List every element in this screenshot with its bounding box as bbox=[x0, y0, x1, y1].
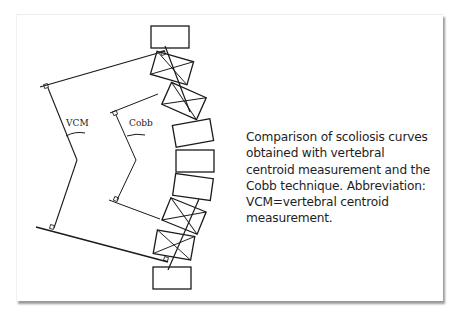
vertebra-9 bbox=[153, 267, 191, 289]
cobb-upper-right-angle-marker bbox=[112, 110, 117, 115]
vertebra-1 bbox=[151, 26, 189, 48]
cobb-angle-construction bbox=[109, 94, 160, 219]
vertebra-6 bbox=[173, 173, 214, 200]
figure-caption: Comparison of scoliosis curves obtained … bbox=[246, 129, 436, 227]
vcm-lower-right-angle-marker-end bbox=[164, 257, 169, 262]
vcm-upper-line bbox=[40, 51, 165, 87]
vertebra-body bbox=[173, 173, 214, 200]
cobb-lower-right-angle-marker bbox=[113, 196, 118, 201]
vertebra-body bbox=[176, 150, 214, 172]
vcm-lower-perpendicular bbox=[54, 160, 77, 228]
cobb-lower-line bbox=[109, 200, 160, 219]
vertebra-2 bbox=[150, 51, 193, 85]
vertebra-5 bbox=[176, 150, 214, 172]
cobb-lower-perpendicular bbox=[117, 160, 136, 200]
cobb-upper-line bbox=[110, 94, 158, 113]
vertebra-diagonal bbox=[150, 51, 193, 85]
vertebra-4 bbox=[172, 119, 213, 147]
vcm-angle-arc bbox=[66, 132, 85, 136]
vertebra-3 bbox=[162, 82, 206, 119]
vcm-lower-right-angle-marker bbox=[50, 225, 55, 230]
vcm-lower-line bbox=[36, 227, 168, 262]
cobb-angle-arc bbox=[127, 134, 145, 136]
vcm-label: VCM bbox=[65, 118, 89, 128]
vcm-angle-construction bbox=[36, 51, 168, 262]
cobb-label: Cobb bbox=[129, 118, 153, 128]
vertebra-body bbox=[153, 267, 191, 289]
vertebra-7 bbox=[162, 198, 206, 234]
vertebra-body bbox=[151, 26, 189, 48]
vertebra-body bbox=[172, 119, 213, 147]
vcm-upper-right-angle-marker bbox=[44, 84, 49, 89]
